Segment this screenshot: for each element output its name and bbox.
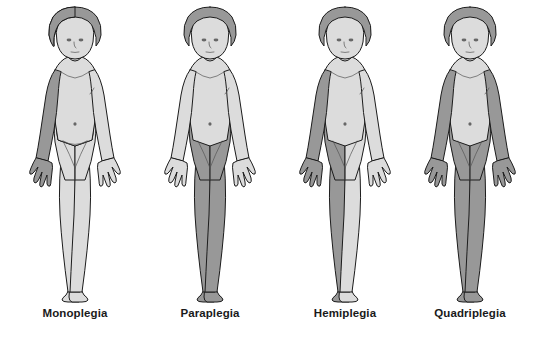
figure-label-quadriplegia: Quadriplegia <box>434 306 506 320</box>
body-figure-paraplegia <box>143 0 277 305</box>
body-figure-monoplegia <box>8 0 142 305</box>
figure-label-paraplegia: Paraplegia <box>180 306 239 320</box>
figure-cell-quadriplegia: Quadriplegia <box>403 0 536 343</box>
figure-label-hemiplegia: Hemiplegia <box>314 306 376 320</box>
figure-cell-hemiplegia: Hemiplegia <box>278 0 412 343</box>
body-figure-hemiplegia <box>278 0 412 305</box>
figure-cell-paraplegia: Paraplegia <box>143 0 277 343</box>
figure-cell-monoplegia: Monoplegia <box>8 0 142 343</box>
figure-label-monoplegia: Monoplegia <box>43 306 108 320</box>
body-figure-quadriplegia <box>403 0 536 305</box>
paralysis-diagram: Monoplegia <box>0 0 536 343</box>
